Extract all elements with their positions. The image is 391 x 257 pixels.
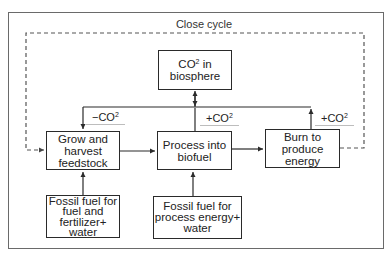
edge-label-plus-co2-burn: +CO2 bbox=[315, 112, 354, 126]
fossil-grow-line: fuel and bbox=[49, 206, 117, 217]
co2-biosphere-line2: biosphere bbox=[170, 70, 221, 82]
process-line: Process into bbox=[163, 139, 226, 151]
burn-line: energy bbox=[282, 155, 324, 167]
grow-line: harvest bbox=[58, 145, 108, 157]
grow-line: feedstock bbox=[58, 157, 108, 169]
node-process-into-biofuel: Process into biofuel bbox=[157, 131, 232, 170]
co2-biosphere-line1: CO2 in bbox=[170, 58, 221, 70]
close-cycle-label: Close cycle bbox=[156, 18, 252, 31]
node-fossil-fuel-fertilizer: Fossil fuel for fuel and fertilizer+ wat… bbox=[46, 195, 120, 238]
edge-label-minus-co2: −CO2 bbox=[86, 111, 125, 125]
node-burn-produce-energy: Burn to produce energy bbox=[265, 129, 340, 168]
edge-label-plus-co2-process: +CO2 bbox=[200, 112, 239, 126]
process-line: biofuel bbox=[163, 151, 226, 163]
node-co2-biosphere: CO2 in biosphere bbox=[158, 50, 232, 90]
grow-line: Grow and bbox=[58, 133, 108, 145]
node-fossil-fuel-process-energy: Fossil fuel for process energy+ water bbox=[153, 196, 242, 239]
burn-line: produce bbox=[282, 143, 324, 155]
fossil-grow-line: water bbox=[49, 227, 117, 238]
burn-line: Burn to bbox=[282, 131, 324, 143]
fossil-process-line: water bbox=[155, 223, 240, 234]
node-grow-harvest-feedstock: Grow and harvest feedstock bbox=[46, 131, 120, 170]
